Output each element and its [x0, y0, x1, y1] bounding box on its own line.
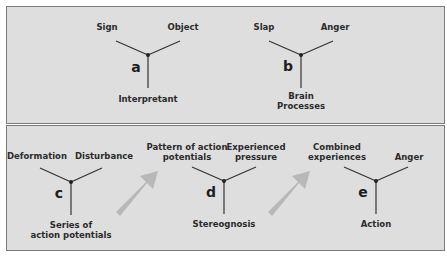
triad-a-lines: [116, 41, 180, 88]
triad-d-right-label-line1: Experienced: [227, 142, 286, 152]
triad-c-node: [69, 180, 73, 184]
triad-d-lines: [192, 167, 256, 214]
triad-b-right-label: Anger: [321, 22, 350, 32]
triad-b-bottom-label-line2: Processes: [277, 101, 325, 111]
arrow-c-to-d-icon: [116, 171, 158, 216]
triad-c-bottom-label-line1: Series of: [50, 220, 92, 230]
triad-c-right-label: Disturbance: [75, 151, 133, 161]
triad-b-lines: [269, 41, 333, 88]
triad-e-node: [374, 179, 378, 183]
triad-a-bottom-label: Interpretant: [118, 94, 177, 104]
triad-a-letter: a: [131, 59, 140, 75]
triad-d-node: [222, 179, 226, 183]
triad-e-left-label-line1: Combined: [313, 142, 361, 152]
triad-e-left-label-line2: experiences: [308, 152, 366, 162]
triad-b-node: [299, 53, 303, 57]
triad-a-node: [146, 53, 150, 57]
triad-b-bottom-label-line1: Brain: [288, 91, 313, 101]
triad-a-left-label: Sign: [96, 22, 117, 32]
triad-e-bottom-label: Action: [361, 219, 392, 229]
triad-d-left-label-line1: Pattern of action: [147, 142, 228, 152]
triad-a-right-label: Object: [167, 22, 198, 32]
triad-c-letter: c: [55, 185, 63, 201]
triad-b-letter: b: [283, 58, 293, 74]
triad-e-letter: e: [358, 184, 368, 200]
triad-e-lines: [344, 167, 408, 214]
triad-c-left-label: Deformation: [7, 151, 67, 161]
arrow-d-to-e-icon: [268, 171, 310, 216]
triad-d-left-label-line2: potentials: [163, 152, 212, 162]
triad-d-bottom-label: Stereognosis: [193, 219, 256, 229]
triad-e-right-label: Anger: [395, 152, 424, 162]
triad-c-lines: [40, 168, 102, 215]
triad-b-left-label: Slap: [254, 22, 275, 32]
triad-d-right-label-line2: pressure: [235, 152, 277, 162]
triad-c-bottom-label-line2: action potentials: [30, 230, 111, 240]
triad-d-letter: d: [206, 184, 216, 200]
